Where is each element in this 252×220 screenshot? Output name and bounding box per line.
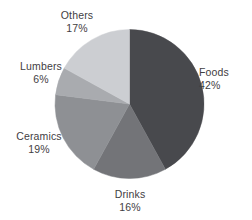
pie-label-others-value: 17%: [38, 22, 116, 35]
pie-label-drinks-value: 16%: [99, 201, 161, 214]
pie-label-ceramics-value: 19%: [0, 143, 78, 156]
pie-label-lumbers-value: 6%: [4, 73, 78, 86]
pie-label-others: Others 17%: [38, 9, 116, 35]
pie-label-foods-value: 42%: [199, 79, 251, 92]
pie-label-foods-name: Foods: [199, 66, 251, 79]
pie-label-ceramics-name: Ceramics: [0, 130, 78, 143]
pie-label-lumbers-name: Lumbers: [4, 60, 78, 73]
pie-label-lumbers: Lumbers 6%: [4, 60, 78, 86]
pie-label-foods: Foods 42%: [199, 66, 251, 92]
pie-label-ceramics: Ceramics 19%: [0, 130, 78, 156]
pie-slice-group: [55, 30, 204, 179]
pie-label-drinks: Drinks 16%: [99, 188, 161, 214]
pie-chart: Foods 42% Drinks 16% Ceramics 19% Lumber…: [0, 0, 252, 220]
pie-label-others-name: Others: [38, 9, 116, 22]
pie-label-drinks-name: Drinks: [99, 188, 161, 201]
